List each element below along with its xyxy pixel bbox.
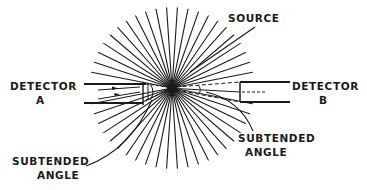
radiation-ray	[174, 16, 209, 85]
detector-a-label-line1: DETECTOR	[10, 80, 77, 92]
subtended-angle-b-label-line2: ANGLE	[245, 146, 287, 158]
source-detector-diagram: SOURCE DETECTOR A DETECTOR B SUBTENDED A…	[0, 0, 367, 190]
detector-b-label-line1: DETECTOR	[292, 80, 359, 92]
radiation-ray	[99, 53, 169, 87]
radiation-ray	[136, 16, 171, 85]
radiation-ray	[174, 92, 209, 161]
radiation-ray	[136, 92, 171, 161]
detector-b-label-line2: B	[319, 94, 328, 106]
subtended-angle-a-label-line1: SUBTENDED	[12, 155, 89, 167]
detector-a-label-line2: A	[36, 94, 45, 106]
source-point	[167, 83, 177, 93]
subtended-angle-b-label-line1: SUBTENDED	[238, 132, 315, 144]
source-label: SOURCE	[228, 12, 280, 24]
subtended-angle-a-label-line2: ANGLE	[37, 169, 79, 181]
